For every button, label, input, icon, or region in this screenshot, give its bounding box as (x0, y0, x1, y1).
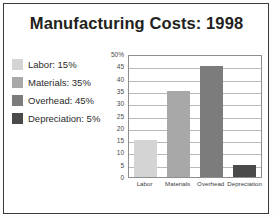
legend-item-label: Materials: 35% (28, 77, 91, 88)
legend-item: Materials: 35% (12, 73, 108, 91)
y-axis-tick-label: 30 (117, 101, 124, 108)
legend-swatch-icon (12, 59, 23, 70)
bar-slot (228, 56, 261, 177)
x-axis-tick-label: Overhead (194, 181, 227, 188)
page-title: Manufacturing Costs: 1998 (0, 14, 273, 33)
bar-series (129, 56, 261, 177)
plot-container: 50%454035302520151050 LaborMaterialsOver… (104, 55, 264, 203)
legend-swatch-icon (12, 113, 23, 124)
bar-slot (195, 56, 228, 177)
bar-overhead (200, 66, 223, 177)
bar-slot (129, 56, 162, 177)
y-axis-tick-label: 20 (117, 126, 124, 133)
chart-legend: Labor: 15%Materials: 35%Overhead: 45%Dep… (12, 55, 108, 127)
y-axis-tick-label: 25 (117, 113, 124, 120)
y-axis-tick-label: 35 (117, 89, 124, 96)
legend-item: Depreciation: 5% (12, 109, 108, 127)
y-axis-tick-label: 40 (117, 76, 124, 83)
x-axis-tick-label: Depreciation (227, 181, 262, 188)
legend-item: Labor: 15% (12, 55, 108, 73)
legend-swatch-icon (12, 77, 23, 88)
plot-area (128, 55, 262, 178)
x-axis-tick-label: Labor (128, 181, 161, 188)
bar-labor (134, 140, 157, 177)
y-axis-tick-label: 5 (120, 162, 124, 169)
legend-item-label: Labor: 15% (28, 59, 77, 70)
bar-materials (167, 91, 190, 177)
x-axis-tick-label: Materials (161, 181, 194, 188)
legend-item: Overhead: 45% (12, 91, 108, 109)
legend-item-label: Depreciation: 5% (28, 113, 100, 124)
y-axis-tick-label: 50% (111, 52, 124, 59)
y-axis-tick-label: 45 (117, 64, 124, 71)
y-axis-tick-label: 15 (117, 138, 124, 145)
bar-slot (162, 56, 195, 177)
legend-item-label: Overhead: 45% (28, 95, 94, 106)
x-axis: LaborMaterialsOverheadDepreciation (128, 181, 262, 188)
legend-swatch-icon (12, 95, 23, 106)
chart-screenshot: Manufacturing Costs: 1998 Labor: 15%Mate… (0, 0, 273, 218)
bar-depreciation (233, 165, 256, 177)
y-axis-tick-label: 0 (120, 175, 124, 182)
y-axis: 50%454035302520151050 (104, 55, 126, 178)
y-axis-tick-label: 10 (117, 150, 124, 157)
